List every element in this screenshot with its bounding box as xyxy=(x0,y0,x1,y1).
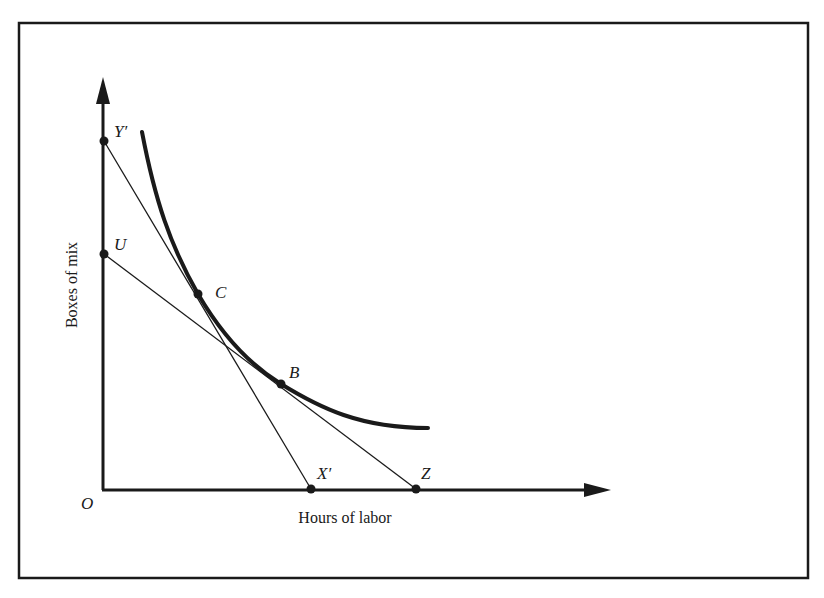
label-b: B xyxy=(289,363,300,382)
point-u xyxy=(100,250,109,259)
x-axis-arrow-icon xyxy=(584,483,611,497)
point-c xyxy=(194,290,203,299)
point-z xyxy=(412,485,421,494)
y-axis-label: Boxes of mix xyxy=(63,242,80,328)
label-c: C xyxy=(215,283,227,302)
label-origin: O xyxy=(81,494,93,513)
point-b xyxy=(277,380,286,389)
label-y-prime: Y′ xyxy=(114,122,127,141)
figure-frame xyxy=(19,23,808,578)
label-z: Z xyxy=(421,464,431,483)
label-u: U xyxy=(114,235,128,254)
y-axis-arrow-icon xyxy=(96,77,110,104)
point-x-prime xyxy=(307,485,316,494)
isoquant-diagram: Y′ U C B X′ Z O Hours of labor Boxes of … xyxy=(0,0,824,598)
point-y-prime xyxy=(100,137,109,146)
isocost-line-y-prime-x-prime xyxy=(104,141,311,489)
label-x-prime: X′ xyxy=(316,464,331,483)
x-axis-label: Hours of labor xyxy=(298,509,392,526)
